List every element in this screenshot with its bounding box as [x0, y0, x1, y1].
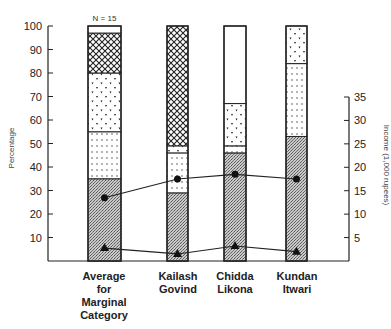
- y2-tick-label: 5: [354, 232, 360, 244]
- y2-tick-label: 15: [354, 185, 366, 197]
- y-tick-label: 100: [24, 20, 42, 32]
- bar-segment-dots: [88, 132, 121, 179]
- category-label: Kailash: [158, 270, 197, 282]
- circle-line: [105, 174, 297, 197]
- y-tick-label: 90: [30, 44, 42, 56]
- category-label: for: [97, 283, 112, 295]
- category-label: Likona: [217, 283, 253, 295]
- bar-segment-crosshatch: [88, 33, 121, 73]
- axes: 1020304050607080901005101520253035Percen…: [7, 20, 391, 261]
- y-tick-label: 30: [30, 185, 42, 197]
- circle-marker-icon: [174, 176, 181, 183]
- category-label: Itwari: [283, 283, 312, 295]
- bar-segment-dots: [167, 153, 188, 193]
- bar-segment-triangles: [167, 146, 188, 153]
- category-label: Govind: [159, 283, 197, 295]
- y-tick-label: 80: [30, 67, 42, 79]
- y2-tick-label: 10: [354, 208, 366, 220]
- y2-tick-label: 30: [354, 114, 366, 126]
- category-label: Marginal: [81, 296, 126, 308]
- category-label: Chidda: [216, 270, 254, 282]
- y2-tick-label: 20: [354, 161, 366, 173]
- bar-segment-triangles: [88, 73, 121, 132]
- bar-segment-crosshatch: [167, 26, 188, 146]
- bar-segment-dots: [224, 146, 246, 153]
- y-tick-label: 50: [30, 138, 42, 150]
- category-label: Average: [82, 270, 125, 282]
- bars: [88, 26, 307, 261]
- category-label: Kundan: [277, 270, 318, 282]
- bar-segment-triangles: [224, 104, 246, 146]
- circle-marker-icon: [293, 176, 300, 183]
- bar-segment-white: [224, 26, 246, 104]
- sample-size-annotation: N = 15: [93, 14, 117, 23]
- stacked-bar-chart: 1020304050607080901005101520253035Percen…: [0, 0, 391, 329]
- category-label: Category: [80, 309, 129, 321]
- bar-segment-triangles: [286, 26, 307, 64]
- triangle-line: [105, 246, 297, 254]
- y2-tick-label: 35: [354, 91, 366, 103]
- y-tick-label: 10: [30, 232, 42, 244]
- y-tick-label: 60: [30, 114, 42, 126]
- y-tick-label: 40: [30, 161, 42, 173]
- y-axis-title: Percentage: [7, 127, 16, 168]
- lines: [100, 171, 301, 257]
- bar-segment-dots: [286, 64, 307, 137]
- y-tick-label: 70: [30, 91, 42, 103]
- bar-segment-gray-stipple: [286, 136, 307, 261]
- bar-segment-white: [88, 26, 121, 33]
- circle-marker-icon: [101, 194, 108, 201]
- y2-axis-title: Income (1,000 rupees): [382, 125, 391, 206]
- circle-marker-icon: [232, 171, 239, 178]
- y-tick-label: 20: [30, 208, 42, 220]
- y2-tick-label: 25: [354, 138, 366, 150]
